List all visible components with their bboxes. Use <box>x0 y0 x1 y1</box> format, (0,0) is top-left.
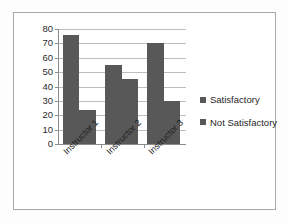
gridline <box>59 29 186 30</box>
chart-frame: 01020304050607080 Instructor 1Instructor… <box>13 12 276 210</box>
legend-square-marker-icon <box>200 97 206 103</box>
y-axis-tick-label: 70 <box>42 39 53 49</box>
y-axis-tick-label: 40 <box>42 82 53 92</box>
bar <box>105 65 122 144</box>
y-axis-tick-label: 30 <box>42 96 53 106</box>
y-axis-tick-label: 20 <box>42 111 53 121</box>
scanned-page-background: 01020304050607080 Instructor 1Instructor… <box>0 0 288 224</box>
y-axis-tick-label: 50 <box>42 67 53 77</box>
legend-item[interactable]: Satisfactory <box>200 95 277 105</box>
y-axis-tick-label: 0 <box>48 139 53 149</box>
legend-item-label: Satisfactory <box>210 95 260 105</box>
y-axis-line <box>58 29 59 144</box>
legend-square-marker-icon <box>200 119 206 125</box>
chart-legend: SatisfactoryNot Satisfactory <box>200 95 277 140</box>
legend-item[interactable]: Not Satisfactory <box>200 118 277 128</box>
x-axis-tick <box>101 144 102 148</box>
bar <box>147 43 164 144</box>
y-axis-tick-label: 60 <box>42 53 53 63</box>
y-axis-tick-label: 80 <box>42 24 53 34</box>
x-axis-tick <box>144 144 145 148</box>
legend-item-label: Not Satisfactory <box>210 118 277 128</box>
bar <box>63 35 80 144</box>
y-axis-tick-label: 10 <box>42 125 53 135</box>
